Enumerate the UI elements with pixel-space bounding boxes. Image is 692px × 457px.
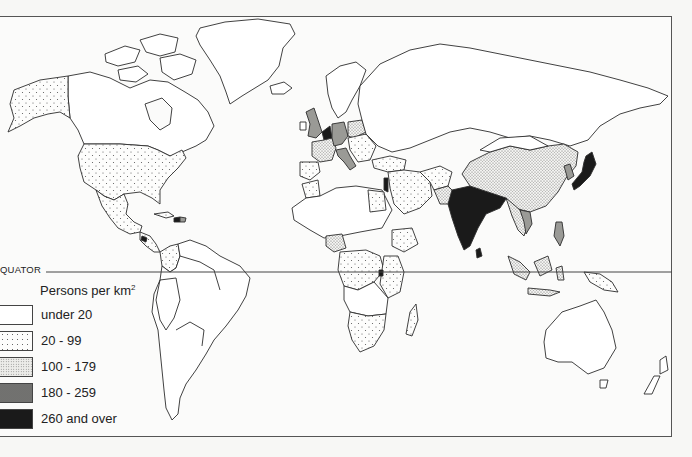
region-turkey bbox=[372, 156, 406, 172]
equator-label: QUATOR bbox=[0, 264, 44, 275]
legend-label: 20 - 99 bbox=[41, 333, 81, 348]
region-russia bbox=[358, 44, 668, 152]
region-uk bbox=[306, 108, 322, 138]
region-madagascar bbox=[406, 304, 418, 336]
region-germany bbox=[332, 122, 348, 146]
legend-label: 260 and over bbox=[41, 411, 117, 426]
region-new-zealand bbox=[660, 356, 668, 374]
region-australia bbox=[544, 300, 616, 374]
region-nigeria bbox=[326, 234, 346, 252]
legend-swatch-260-over bbox=[0, 409, 33, 429]
region-central-africa bbox=[338, 250, 384, 290]
legend-swatch-20-99 bbox=[0, 331, 33, 351]
legend-title-superscript: 2 bbox=[131, 283, 135, 292]
legend-item-100-179: 100 - 179 bbox=[0, 357, 200, 377]
legend-swatch-180-259 bbox=[0, 383, 33, 403]
legend-label: 180 - 259 bbox=[41, 385, 96, 400]
region-canada bbox=[68, 72, 214, 156]
region-ethiopia bbox=[392, 228, 418, 252]
region-southern-africa bbox=[348, 312, 386, 352]
legend-swatch-under-20 bbox=[0, 305, 33, 325]
legend-item-under-20: under 20 bbox=[0, 305, 200, 325]
region-new-guinea bbox=[584, 272, 618, 292]
region-east-africa bbox=[380, 256, 404, 298]
legend-item-20-99: 20 - 99 bbox=[0, 331, 200, 351]
legend-label: under 20 bbox=[41, 307, 92, 322]
legend-item-180-259: 180 - 259 bbox=[0, 383, 200, 403]
region-egypt bbox=[368, 190, 386, 212]
legend-title: Persons per km2 bbox=[40, 283, 136, 298]
region-mexico bbox=[96, 190, 142, 234]
region-rwanda bbox=[379, 270, 383, 276]
region-philippines bbox=[554, 222, 564, 246]
region-central-america bbox=[140, 232, 160, 252]
region-iberia bbox=[300, 162, 320, 180]
region-france bbox=[312, 138, 336, 162]
region-alaska bbox=[8, 76, 70, 132]
legend-label: 100 - 179 bbox=[41, 359, 96, 374]
region-morocco bbox=[302, 180, 320, 198]
region-indonesia bbox=[508, 256, 530, 280]
legend-title-text: Persons per km bbox=[40, 283, 131, 298]
legend-swatch-100-179 bbox=[0, 357, 33, 377]
region-israel bbox=[384, 178, 388, 192]
legend-item-260-over: 260 and over bbox=[0, 409, 200, 429]
region-benelux bbox=[322, 126, 332, 140]
